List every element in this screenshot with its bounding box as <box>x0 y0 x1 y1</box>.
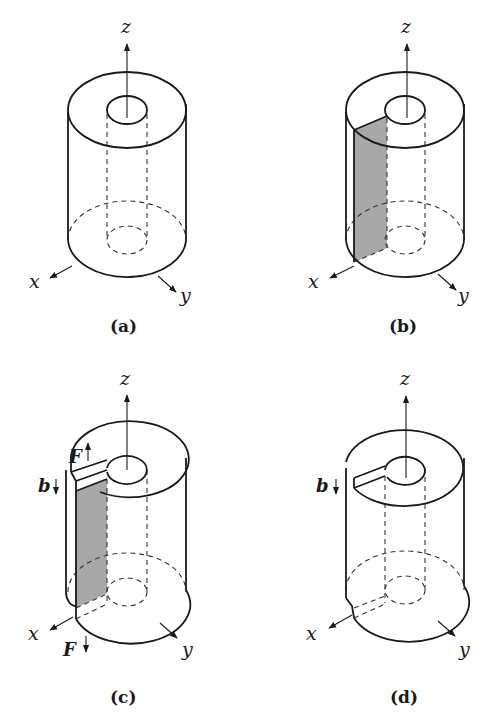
panel-b: z x y (b) <box>308 15 469 336</box>
x-axis <box>50 617 73 630</box>
left-bottom-curve <box>66 592 76 606</box>
cut-plane <box>354 116 387 262</box>
z-label: z <box>120 15 132 37</box>
dislocation-figure: z x y (a) z x y (b) <box>0 0 488 723</box>
panel-d: b z x y (d) <box>306 367 470 707</box>
bottom-bore <box>107 578 147 606</box>
slit-corner <box>71 472 76 481</box>
y-label: y <box>458 638 470 660</box>
bottom-bore <box>385 576 425 604</box>
bottom-step <box>346 598 354 618</box>
step-upper-edge <box>354 466 385 478</box>
bottom-ellipse-back <box>346 551 464 590</box>
caption-c: (c) <box>110 687 136 707</box>
step-lower-edge <box>354 476 385 488</box>
y-label: y <box>179 284 191 306</box>
slit-lower-edge <box>76 470 107 481</box>
y-label: y <box>457 284 469 306</box>
y-axis <box>438 274 456 290</box>
caption-d: (d) <box>390 687 418 707</box>
z-label: z <box>119 367 131 389</box>
panel-a: z x y (a) <box>29 15 191 336</box>
top-bore <box>385 96 425 124</box>
x-axis <box>330 266 354 278</box>
burgers-label: b <box>38 475 51 496</box>
x-label: x <box>306 622 317 644</box>
caption-b: (b) <box>389 316 417 336</box>
y-axis <box>158 276 176 292</box>
top-bore <box>385 457 425 485</box>
x-label: x <box>29 270 40 292</box>
step-bottom-lower <box>354 604 385 618</box>
bottom-ellipse-front <box>68 236 186 277</box>
x-axis <box>329 615 352 628</box>
x-label: x <box>308 270 319 292</box>
panel-c: F b F z x y (c) <box>28 367 193 707</box>
bottom-bore <box>107 226 147 254</box>
x-axis <box>50 266 72 278</box>
y-label: y <box>181 638 193 660</box>
x-label: x <box>28 622 39 644</box>
force-bottom-label: F <box>62 639 77 660</box>
bottom-ellipse-back <box>68 201 186 240</box>
z-label: z <box>399 367 411 389</box>
caption-a: (a) <box>110 316 137 336</box>
top-ellipse <box>346 430 463 506</box>
z-label: z <box>400 15 412 37</box>
top-ellipse <box>346 72 464 148</box>
bottom-bore <box>385 226 425 254</box>
burgers-label: b <box>316 475 329 496</box>
cut-plane <box>76 479 107 608</box>
force-top-label: F <box>68 446 83 467</box>
